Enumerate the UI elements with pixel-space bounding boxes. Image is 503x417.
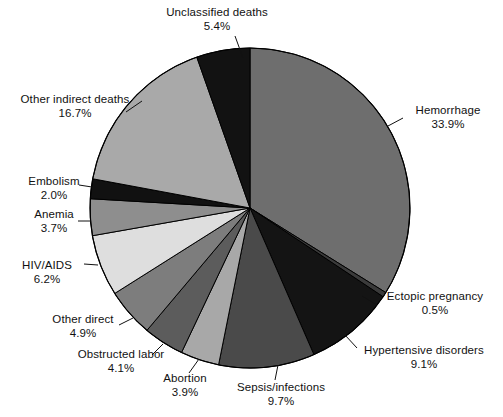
pie-label-sepsis-infections: Sepsis/infections 9.7% [225, 381, 337, 408]
pie-label-hypertensive-disorders: Hypertensive disorders 9.1% [348, 344, 500, 371]
pie-label-anemia: Anemia 3.7% [26, 208, 82, 235]
pie-label-hiv-aids: HIV/AIDS 6.2% [11, 259, 83, 286]
pie-label-name: HIV/AIDS [11, 259, 83, 273]
pie-label-obstructed-labor: Obstructed labor 4.1% [62, 348, 180, 375]
pie-label-value: 9.7% [225, 395, 337, 409]
pie-label-value: 4.9% [36, 327, 130, 341]
pie-label-abortion: Abortion 3.9% [149, 372, 221, 399]
pie-label-value: 0.5% [371, 304, 499, 318]
pie-label-value: 9.1% [348, 358, 500, 372]
leader-line-abortion [189, 359, 199, 373]
pie-label-embolism: Embolism 2.0% [20, 175, 88, 202]
leader-line-hivaids [84, 264, 98, 265]
pie-label-value: 33.9% [398, 118, 498, 132]
pie-label-value: 4.1% [62, 362, 180, 376]
pie-label-name: Sepsis/infections [225, 381, 337, 395]
pie-label-value: 3.7% [26, 222, 82, 236]
pie-label-name: Other indirect deaths [5, 93, 145, 107]
pie-label-name: Hemorrhage [398, 104, 498, 118]
pie-chart-figure: Unclassified deaths 5.4% Hemorrhage 33.9… [0, 0, 503, 417]
pie-label-name: Anemia [26, 208, 82, 222]
pie-label-hemorrhage: Hemorrhage 33.9% [398, 104, 498, 131]
pie-label-value: 5.4% [148, 20, 286, 34]
pie-label-name: Hypertensive disorders [348, 344, 500, 358]
pie-label-unclassified-deaths: Unclassified deaths 5.4% [148, 6, 286, 33]
pie-label-other-direct: Other direct 4.9% [36, 313, 130, 340]
pie-label-name: Obstructed labor [62, 348, 180, 362]
pie-label-name: Embolism [20, 175, 88, 189]
pie-label-value: 6.2% [11, 273, 83, 287]
pie-label-name: Ectopic pregnancy [371, 290, 499, 304]
pie-label-value: 16.7% [5, 107, 145, 121]
pie-label-other-indirect-deaths: Other indirect deaths 16.7% [5, 93, 145, 120]
pie-label-ectopic-pregnancy: Ectopic pregnancy 0.5% [371, 290, 499, 317]
pie-label-name: Unclassified deaths [148, 6, 286, 20]
pie-label-value: 2.0% [20, 189, 88, 203]
leader-line-sepsis [275, 365, 278, 380]
pie-label-name: Other direct [36, 313, 130, 327]
pie-label-value: 3.9% [149, 386, 221, 400]
